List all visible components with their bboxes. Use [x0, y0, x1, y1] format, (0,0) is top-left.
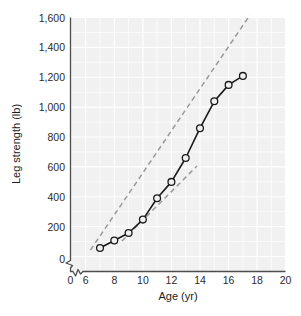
chart-figure: 1,600 1,400 1,200 1,000 800 600 400 200 …	[0, 0, 301, 316]
data-point	[211, 98, 218, 105]
y-tick-labels: 1,600 1,400 1,200 1,000 800 600 400 200 …	[39, 12, 65, 265]
y-tick-label: 800	[47, 131, 65, 143]
x-tick-label: 16	[223, 274, 235, 286]
y-tick-label: 1,400	[39, 41, 65, 53]
data-point	[154, 195, 161, 202]
data-point	[197, 125, 204, 132]
data-point	[125, 230, 132, 237]
y-tick-label: 1,600	[39, 12, 65, 24]
plot-background	[71, 18, 286, 272]
leg-strength-vs-age-chart: 1,600 1,400 1,200 1,000 800 600 400 200 …	[0, 0, 301, 316]
data-point	[140, 216, 147, 223]
data-point	[97, 245, 104, 252]
x-tick-label: 12	[166, 274, 178, 286]
x-tick-label: 6	[83, 274, 89, 286]
x-tick-label: 0	[68, 274, 74, 286]
data-point	[168, 179, 175, 186]
y-tick-label: 600	[47, 161, 65, 173]
x-tick-label: 20	[280, 274, 292, 286]
data-point	[111, 237, 118, 244]
x-tick-label: 10	[137, 274, 149, 286]
x-tick-label: 8	[111, 274, 117, 286]
data-point	[182, 155, 189, 162]
y-tick-label: 200	[47, 221, 65, 233]
y-tick-label: 1,000	[39, 101, 65, 113]
y-axis-title: Leg strength (lb)	[10, 104, 22, 184]
data-point	[240, 73, 247, 80]
x-tick-label: 18	[251, 274, 263, 286]
y-tick-label: 400	[47, 191, 65, 203]
data-point	[225, 82, 232, 89]
y-tick-label: 0	[59, 253, 65, 265]
y-tick-label: 1,200	[39, 71, 65, 83]
x-axis-title: Age (yr)	[158, 290, 197, 302]
x-tick-labels: 0 6 8 10 12 14 16 18 20	[68, 274, 292, 286]
x-tick-label: 14	[194, 274, 206, 286]
